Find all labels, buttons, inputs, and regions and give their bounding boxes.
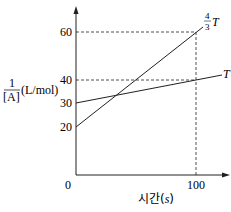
xlabel: 시간(s) [138,192,174,206]
series-T-label: T [223,67,231,81]
series-4-3-T-label: T [212,15,220,29]
series-4-3-T-denominator: 3 [205,22,210,32]
series-T-line [76,75,222,103]
ylabel-unit: (L/mol) [21,83,58,97]
y-tick-60: 60 [60,25,72,39]
ylabel-denominator: [A] [3,90,20,104]
y-tick-20: 20 [60,120,72,134]
y-tick-40: 40 [60,73,72,87]
series-4-3-T-numerator: 4 [205,11,210,21]
y-axis-arrow-icon [74,6,79,14]
y-tick-30: 30 [60,96,72,110]
x-tick-100: 100 [187,178,205,192]
x-axis-arrow-icon [222,173,230,178]
chart: 60 40 30 20 0 100 1 [A] (L/mol) 시간(s) 4 … [0,0,231,212]
series-4-3-T-line [76,27,203,127]
ylabel-numerator: 1 [9,76,15,90]
origin-label: 0 [65,178,71,192]
